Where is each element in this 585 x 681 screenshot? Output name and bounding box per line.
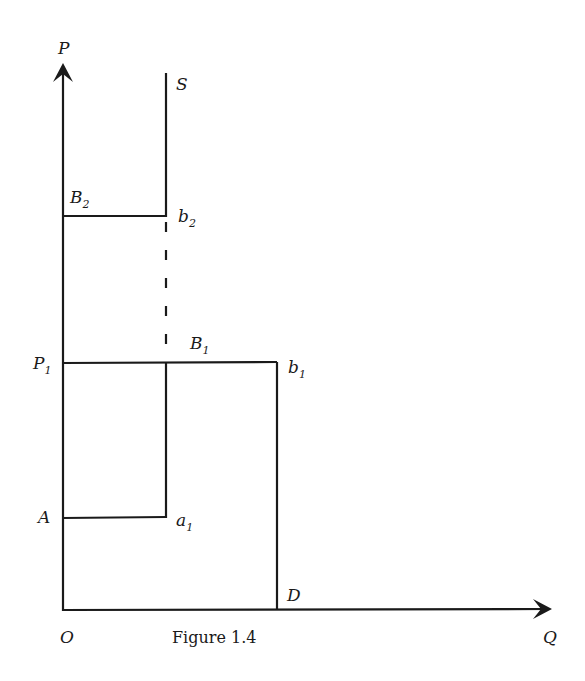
supply-label: S [176, 74, 188, 94]
demand-label: D [286, 585, 301, 605]
p1-horizontal [63, 362, 277, 363]
label-b1: b1 [288, 357, 306, 381]
a1-horizontal [63, 517, 166, 518]
figure-caption: Figure 1.4 [172, 628, 256, 647]
label-B1: B1 [189, 333, 210, 357]
p-axis-label: P [57, 38, 70, 58]
label-b2: b2 [178, 206, 196, 230]
q-axis [63, 609, 548, 610]
q-axis-label: Q [543, 627, 557, 647]
label-a1: a1 [176, 510, 193, 534]
label-P1: P1 [32, 353, 51, 377]
label-A: A [36, 507, 50, 527]
supply-demand-diagram: P S B2 b2 B1 P1 b1 A a1 D O Figure 1.4 Q [0, 0, 585, 681]
origin-label: O [60, 627, 74, 647]
label-B2: B2 [69, 187, 90, 211]
